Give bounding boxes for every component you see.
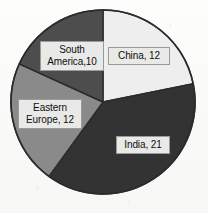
pie-chart-figure: China, 12 India, 21 Eastern Europe, 12 S… [0,0,208,213]
pie-label-china: China, 12 [108,47,170,65]
pie-label-south-america: South America,10 [40,41,104,71]
pie-label-india: India, 21 [116,136,170,154]
pie-label-eastern-europe: Eastern Europe, 12 [18,99,82,129]
